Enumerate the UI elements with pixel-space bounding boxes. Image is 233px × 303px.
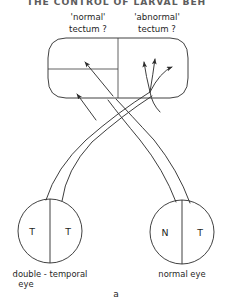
eye-right-hemifield-nasal-letter: N bbox=[161, 227, 168, 238]
figure-root: THE CONTROL OF LARVAL BEH bbox=[0, 0, 233, 303]
arbor-arrow-left-1 bbox=[85, 62, 113, 96]
eye-left-hemifield-nasal-letter: T bbox=[28, 226, 35, 237]
retinotectal-diagram: T T N T 'normal' tectum ? 'abnormal' tec… bbox=[0, 0, 233, 303]
tectum-left-arbors bbox=[77, 62, 113, 120]
eye-right-caption-line1: normal eye bbox=[158, 269, 205, 279]
nerve-left-eye-to-right-tectum-b bbox=[62, 96, 152, 201]
nerve-right-eye-to-left-tectum-a bbox=[108, 100, 176, 202]
tectum-right-label: 'abnormal' tectum ? bbox=[134, 12, 180, 34]
eye-normal: N T bbox=[150, 200, 214, 264]
arbor-arrow-right-1 bbox=[144, 62, 150, 92]
panel-letter: a bbox=[113, 289, 119, 299]
eye-left-caption-line1: double - temporal bbox=[13, 269, 88, 279]
arbor-stem-right bbox=[150, 92, 160, 112]
nerve-right-eye-to-left-tectum-b bbox=[116, 99, 190, 203]
eye-left-caption: double - temporal eye bbox=[13, 269, 88, 289]
tectum-right-arbors bbox=[144, 59, 172, 112]
tectum-right-label-line2: tectum ? bbox=[138, 24, 176, 34]
eye-left-caption-line2: eye bbox=[18, 279, 33, 289]
eye-double-temporal: T T bbox=[18, 199, 82, 263]
optic-nerve-pathways bbox=[46, 92, 190, 203]
tectum-left-label: 'normal' tectum ? bbox=[69, 12, 107, 34]
tectum-left-label-line1: 'normal' bbox=[71, 12, 106, 22]
tectum-left-label-line2: tectum ? bbox=[69, 24, 107, 34]
eye-right-hemifield-temporal-letter: T bbox=[196, 227, 203, 238]
eye-right-caption: normal eye bbox=[158, 269, 205, 279]
tectum-outline-group bbox=[48, 38, 188, 98]
tectum-right-label-line1: 'abnormal' bbox=[134, 12, 180, 22]
eye-left-hemifield-temporal-letter: T bbox=[64, 226, 71, 237]
